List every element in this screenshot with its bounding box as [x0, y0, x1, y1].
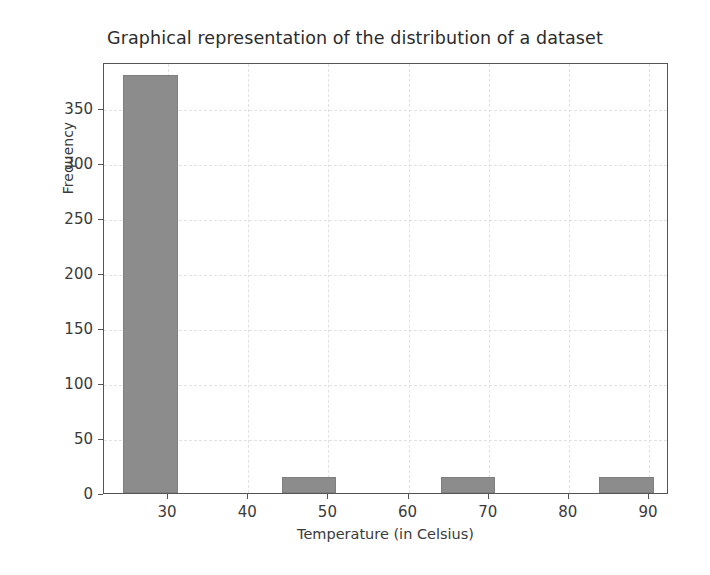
y-tick-mark: [98, 219, 103, 220]
x-tick-mark: [327, 494, 328, 499]
x-tick-mark: [568, 494, 569, 499]
bars-group: [104, 64, 667, 493]
y-tick-mark: [98, 164, 103, 165]
histogram-bar: [282, 477, 336, 493]
y-tick-mark: [98, 329, 103, 330]
y-tick-label: 50: [33, 430, 93, 448]
y-tick-label: 0: [33, 485, 93, 503]
x-tick-mark: [167, 494, 168, 499]
x-tick-mark: [247, 494, 248, 499]
x-tick-label: 60: [378, 503, 438, 521]
x-axis-label: Temperature (in Celsius): [103, 526, 668, 542]
x-tick-mark: [488, 494, 489, 499]
chart-title: Graphical representation of the distribu…: [0, 28, 710, 48]
y-tick-mark: [98, 439, 103, 440]
x-tick-label: 30: [137, 503, 197, 521]
chart-figure: Graphical representation of the distribu…: [0, 0, 710, 575]
x-tick-mark: [648, 494, 649, 499]
x-tick-label: 40: [217, 503, 277, 521]
y-axis-label: Frequency: [60, 28, 76, 288]
y-tick-mark: [98, 494, 103, 495]
plot-area: [103, 63, 668, 494]
x-tick-label: 90: [618, 503, 678, 521]
y-tick-label: 150: [33, 320, 93, 338]
y-tick-mark: [98, 384, 103, 385]
x-tick-label: 50: [297, 503, 357, 521]
x-tick-label: 80: [538, 503, 598, 521]
y-tick-mark: [98, 109, 103, 110]
y-tick-mark: [98, 274, 103, 275]
x-tick-mark: [408, 494, 409, 499]
histogram-bar: [123, 75, 177, 493]
x-tick-label: 70: [458, 503, 518, 521]
histogram-bar: [441, 477, 495, 493]
histogram-bar: [599, 477, 653, 493]
y-tick-label: 100: [33, 375, 93, 393]
